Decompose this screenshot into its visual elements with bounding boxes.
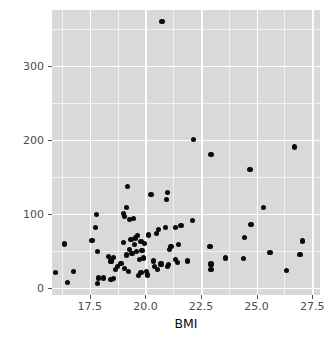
x-axis-tick-label: 22.5: [189, 300, 214, 313]
data-point: [247, 167, 252, 172]
gridline-minor-vertical: [229, 10, 230, 295]
data-point: [148, 192, 153, 197]
data-point: [178, 223, 183, 228]
x-axis-tick-mark: [257, 295, 258, 299]
y-axis-tick-label: 100: [44, 207, 65, 220]
data-point: [207, 244, 212, 249]
data-point: [142, 241, 147, 246]
x-axis-tick-mark: [90, 295, 91, 299]
data-point: [163, 225, 168, 230]
data-point: [94, 212, 99, 217]
data-point: [248, 222, 253, 227]
x-axis-tick-label: 25.0: [244, 300, 269, 313]
data-point: [151, 258, 156, 263]
gridline-minor-horizontal: [52, 177, 320, 178]
data-point: [131, 216, 136, 221]
gridline-minor-vertical: [173, 10, 174, 295]
data-point: [124, 205, 129, 210]
gridline-major-horizontal: [52, 288, 320, 290]
data-point: [101, 275, 106, 280]
data-point: [297, 252, 302, 257]
gridline-minor-vertical: [62, 10, 63, 295]
gridline-major-vertical: [90, 10, 92, 295]
data-point: [138, 270, 143, 275]
data-point: [191, 137, 196, 142]
gridline-major-vertical: [201, 10, 203, 295]
data-point: [158, 261, 163, 266]
x-axis-tick-mark: [145, 295, 146, 299]
data-point: [190, 218, 195, 223]
data-point: [93, 225, 98, 230]
data-point: [65, 280, 70, 285]
data-point: [134, 249, 139, 254]
data-point: [121, 240, 126, 245]
plot-panel: [52, 10, 320, 295]
data-point: [62, 241, 67, 246]
data-point: [208, 261, 213, 266]
data-point: [261, 205, 266, 210]
x-axis-tick-mark: [312, 295, 313, 299]
data-point: [132, 242, 137, 247]
data-point: [111, 276, 116, 281]
data-point: [108, 258, 113, 263]
data-point: [89, 238, 94, 243]
data-point: [300, 238, 305, 243]
gridline-minor-horizontal: [52, 251, 320, 252]
y-axis-tick-label: 200: [44, 133, 65, 146]
gridline-minor-vertical: [118, 10, 119, 295]
data-point: [137, 257, 142, 262]
data-point: [241, 256, 246, 261]
data-point: [115, 264, 120, 269]
gridline-major-vertical: [145, 10, 147, 295]
data-point: [175, 260, 180, 265]
data-point: [165, 264, 170, 269]
data-point: [122, 214, 127, 219]
data-point: [165, 190, 170, 195]
x-axis-tick-label: 27.5: [300, 300, 325, 313]
data-point: [145, 272, 150, 277]
x-axis-tick-label: 20.0: [133, 300, 158, 313]
data-point: [208, 152, 213, 157]
x-axis-tick-label: 17.5: [78, 300, 103, 313]
data-point: [242, 235, 247, 240]
x-axis-tick-mark: [201, 295, 202, 299]
data-point: [164, 197, 169, 202]
gridline-major-vertical: [312, 10, 314, 295]
gridline-major-vertical: [257, 10, 259, 295]
data-point: [95, 281, 100, 286]
data-point: [129, 251, 134, 256]
data-point: [267, 250, 272, 255]
data-point: [146, 232, 151, 237]
gridline-minor-vertical: [284, 10, 285, 295]
y-axis-tick-label: 0: [44, 281, 51, 294]
data-point: [176, 242, 181, 247]
data-point: [126, 269, 131, 274]
gridline-major-horizontal: [52, 214, 320, 216]
gridline-major-horizontal: [52, 66, 320, 68]
gridline-minor-horizontal: [52, 103, 320, 104]
data-point: [208, 267, 213, 272]
gridline-minor-horizontal: [52, 29, 320, 30]
gridline-major-horizontal: [52, 140, 320, 142]
data-point: [223, 255, 228, 260]
data-point: [71, 269, 76, 274]
scatter-plot-figure: Food_A BMI 17.520.022.525.027.5010020030…: [0, 0, 335, 339]
x-axis-title: BMI: [52, 316, 320, 331]
y-axis-tick-label: 300: [44, 59, 65, 72]
data-point: [173, 225, 178, 230]
data-point: [53, 270, 58, 275]
data-point: [292, 144, 297, 149]
data-point: [133, 235, 138, 240]
data-point: [159, 19, 164, 24]
data-point: [154, 231, 159, 236]
data-point: [95, 249, 100, 254]
data-point: [185, 258, 190, 263]
data-point: [125, 184, 130, 189]
data-point: [124, 252, 129, 257]
data-point: [284, 268, 289, 273]
data-point: [139, 248, 144, 253]
